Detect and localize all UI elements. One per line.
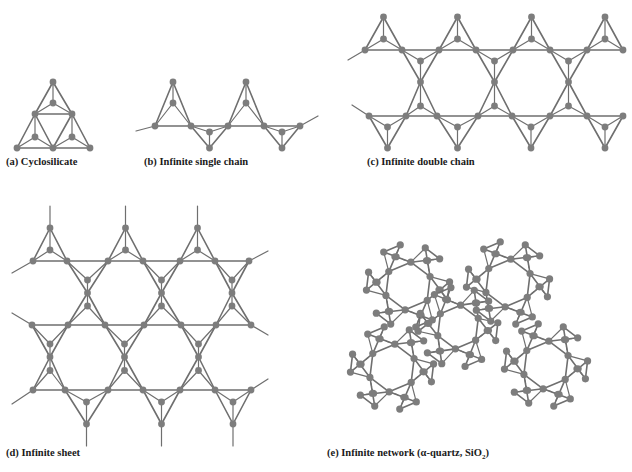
single-chain-diagram [136, 79, 318, 152]
caption-single-chain: (b) Infinite single chain [144, 156, 248, 167]
caption-infinite-network: (e) Infinite network (α-quartz, SiO2) [327, 447, 489, 461]
quartz-network-diagram [347, 238, 591, 412]
caption-infinite-sheet: (d) Infinite sheet [6, 447, 80, 458]
cyclosilicate-diagram [14, 79, 94, 152]
infinite-sheet-diagram [12, 206, 268, 446]
caption-double-chain: (c) Infinite double chain [367, 156, 475, 167]
silicate-structures-figure [0, 0, 632, 472]
double-chain-diagram [348, 14, 626, 152]
caption-cyclosilicate: (a) Cyclosilicate [6, 156, 77, 167]
